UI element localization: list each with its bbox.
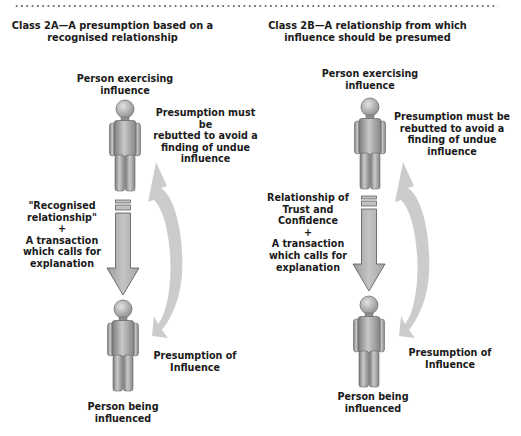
rebuttal-label: Presumption must be rebutted to avoid a …	[393, 111, 511, 157]
panel-title: Class 2A—A presumption based on a recogn…	[10, 20, 215, 43]
top-person-label: Person exercising influence	[310, 68, 430, 91]
top-person-label: Person exercising influence	[65, 73, 185, 96]
bottom-person-label: Person being influenced	[68, 401, 178, 424]
person-exercising-influence-icon	[355, 98, 386, 189]
person-exercising-influence-icon	[110, 100, 141, 191]
down-arrow-icon	[353, 196, 385, 291]
presumption-label: Presumption of Influence	[140, 350, 250, 373]
person-being-influenced-icon	[108, 300, 139, 391]
curved-double-arrow-icon	[148, 162, 182, 338]
presumption-label: Presumption of Influence	[390, 347, 510, 370]
rebuttal-label: Presumption must be rebutted to avoid a …	[148, 107, 263, 165]
panel-title: Class 2B—A relationship from which influ…	[265, 20, 470, 43]
curved-double-arrow-icon	[395, 162, 429, 338]
person-being-influenced-icon	[354, 296, 385, 387]
bottom-person-label: Person being influenced	[318, 391, 428, 414]
relationship-label: Relationship of Trust and Confidence + A…	[263, 192, 353, 273]
relationship-label: "Recognised relationship" + A transactio…	[8, 200, 116, 270]
